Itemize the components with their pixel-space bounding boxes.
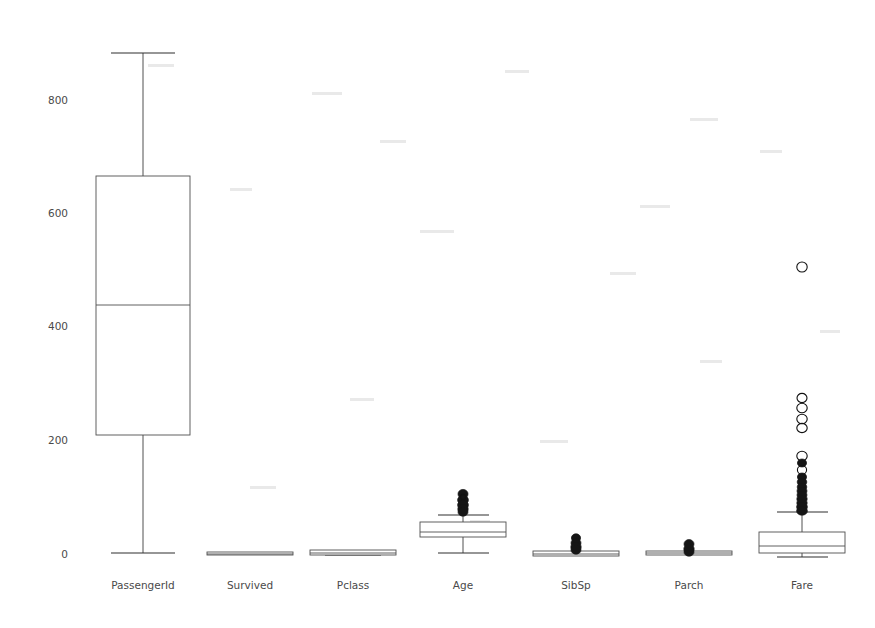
box-parch[interactable]	[646, 540, 732, 557]
boxplot-canvas: 800 600 400 200 0	[0, 0, 875, 628]
x-tick-pclass: Pclass	[337, 579, 369, 591]
scan-noise	[100, 64, 840, 523]
x-axis-ticks: PassengerId Survived Pclass Age SibSp Pa…	[111, 579, 813, 591]
box-pclass[interactable]	[310, 550, 396, 555]
x-tick-passengerid: PassengerId	[111, 579, 175, 591]
boxplot-figure: 800 600 400 200 0	[0, 0, 875, 628]
box-fare[interactable]	[759, 262, 845, 557]
x-tick-parch: Parch	[675, 579, 704, 591]
y-tick-200: 200	[48, 434, 68, 446]
x-tick-sibsp: SibSp	[561, 579, 591, 591]
box-survived[interactable]	[207, 552, 293, 555]
box-passengerid[interactable]	[96, 53, 190, 553]
outliers-parch	[684, 540, 694, 557]
outliers-age	[458, 489, 469, 516]
y-tick-800: 800	[48, 94, 68, 106]
outliers-sibsp	[571, 534, 581, 554]
y-tick-600: 600	[48, 207, 68, 219]
x-tick-fare: Fare	[791, 579, 813, 591]
box-age[interactable]	[420, 489, 506, 553]
y-axis-ticks: 800 600 400 200 0	[48, 94, 68, 560]
x-tick-survived: Survived	[227, 579, 273, 591]
box-sibsp[interactable]	[533, 534, 619, 556]
outliers-fare	[797, 262, 808, 515]
y-tick-0: 0	[61, 548, 68, 560]
x-tick-age: Age	[453, 579, 473, 591]
y-tick-400: 400	[48, 320, 68, 332]
